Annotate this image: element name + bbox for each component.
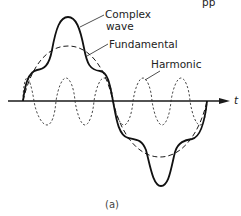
axis-arrow-icon xyxy=(219,98,230,104)
label-harmonic: Harmonic xyxy=(151,58,202,70)
label-complex-wave-line2: wave xyxy=(106,20,134,32)
time-axis: t xyxy=(8,94,239,106)
label-fundamental: Fundamental xyxy=(109,38,178,50)
harmonic-leader xyxy=(145,71,160,80)
label-complex-wave-line1: Complex xyxy=(105,8,151,20)
axis-label-t: t xyxy=(234,94,239,106)
figure-caption: (a) xyxy=(105,199,119,210)
waveform-diagram: pp t Complex wave Fundamental Harmonic (… xyxy=(0,0,241,216)
fundamental-leader xyxy=(87,44,108,56)
complex-leader xyxy=(80,15,104,27)
waveform-figure: pp t Complex wave Fundamental Harmonic (… xyxy=(0,0,241,216)
partial-header-text: pp xyxy=(202,0,216,8)
